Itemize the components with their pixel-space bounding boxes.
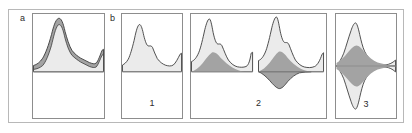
panel-2-right-dark-core-below bbox=[259, 72, 312, 89]
figure-container: a b 1 2 bbox=[0, 0, 412, 133]
panel-a-plot bbox=[33, 14, 104, 118]
panel-1-density-area bbox=[122, 25, 181, 72]
group-label-a: a bbox=[20, 14, 25, 23]
panel-2[interactable]: 2 bbox=[190, 13, 327, 119]
panel-1[interactable]: 1 bbox=[121, 13, 183, 119]
group-label-b: b bbox=[110, 14, 115, 23]
panel-3-number-label: 3 bbox=[336, 100, 396, 109]
panel-a[interactable] bbox=[32, 13, 105, 119]
panel-3[interactable]: 3 bbox=[335, 13, 397, 119]
panel-1-number-label: 1 bbox=[122, 99, 182, 108]
panel-2-number-label: 2 bbox=[191, 99, 326, 108]
